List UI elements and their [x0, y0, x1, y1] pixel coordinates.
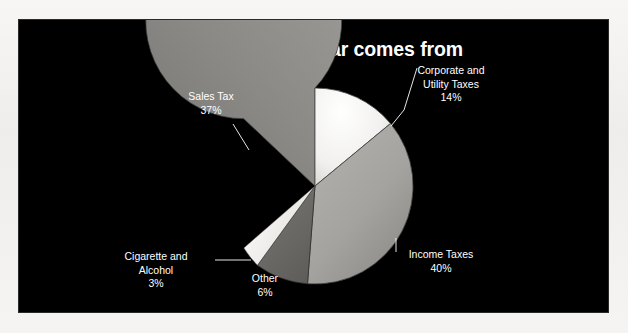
- slice-label-line2: Utility Taxes: [423, 78, 479, 90]
- slice-label-income-taxes: Income Taxes 40%: [386, 248, 496, 275]
- leader-line-sales: [233, 124, 249, 150]
- slice-label-line1: Sales Tax: [188, 90, 233, 102]
- slice-label-line1: Corporate and: [417, 64, 484, 76]
- slice-label-line2: Alcohol: [139, 264, 173, 276]
- slice-label-other: Other 6%: [230, 272, 300, 299]
- slice-value: 40%: [386, 262, 496, 276]
- slice-label-line1: Cigarette and: [124, 250, 187, 262]
- slice-label-line1: Income Taxes: [409, 248, 474, 260]
- slice-label-line1: Other: [252, 272, 278, 284]
- slice-value: 6%: [230, 286, 300, 300]
- slice-label-sales-tax: Sales Tax 37%: [161, 90, 261, 117]
- slice-label-corporate-and-utility-taxes: Corporate and Utility Taxes 14%: [391, 64, 511, 105]
- chart-panel: Where the tax dollar comes from: [19, 20, 608, 312]
- slice-value: 37%: [161, 104, 261, 118]
- slice-value: 3%: [97, 277, 215, 291]
- chart-page: Where the tax dollar comes from: [0, 0, 628, 333]
- slice-label-cigarette-and-alcohol: Cigarette and Alcohol 3%: [97, 250, 215, 291]
- slice-value: 14%: [391, 91, 511, 105]
